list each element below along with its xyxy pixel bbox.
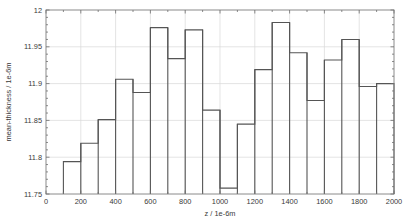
x-tick-label: 2000: [386, 197, 402, 206]
y-tick-label: 11.75: [24, 190, 42, 199]
chart-background: [0, 0, 411, 222]
histogram-chart: 0200400600800100012001400160018002000 11…: [0, 0, 411, 222]
y-tick-label: 11.85: [24, 116, 42, 125]
y-tick-label: 11.95: [24, 42, 42, 51]
y-tick-label: 11.8: [28, 153, 42, 162]
x-tick-label: 1800: [351, 197, 367, 206]
x-tick-label: 200: [75, 197, 87, 206]
y-axis-title: mean-thickness / 1e-6m: [4, 63, 13, 142]
y-tick-label: 11.9: [28, 79, 42, 88]
x-tick-label: 400: [109, 197, 121, 206]
chart-canvas: 0200400600800100012001400160018002000 11…: [0, 0, 411, 222]
x-tick-label: 1200: [247, 197, 263, 206]
x-tick-label: 1600: [316, 197, 332, 206]
x-tick-label: 1400: [281, 197, 297, 206]
x-tick-label: 600: [144, 197, 156, 206]
x-axis-title: z / 1e-6m: [205, 209, 236, 218]
x-tick-label: 1000: [212, 197, 228, 206]
x-tick-label: 800: [179, 197, 191, 206]
y-tick-label: 12: [34, 6, 42, 15]
x-tick-label: 0: [44, 197, 48, 206]
